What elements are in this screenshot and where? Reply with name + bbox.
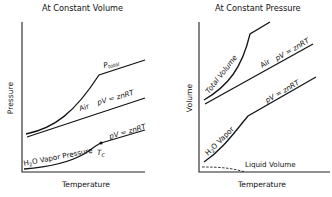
panel-constant-volume: At Constant Volume Pressure Temperature … [6, 3, 147, 189]
y-axis-label: Pressure [6, 81, 15, 114]
label-air-eq: pV = znRT [273, 36, 312, 63]
label-liquid-volume: Liquid Volume [245, 160, 296, 169]
figure: At Constant Volume Pressure Temperature … [0, 0, 332, 197]
label-h2o-vapor-pressure: H2O Vapor Pressure [23, 146, 94, 169]
panel-title: At Constant Volume [42, 3, 123, 13]
label-air: Air [78, 102, 90, 113]
label-vapor-eq: pV = znRT [263, 78, 302, 105]
label-air-eq: pV = znRT [95, 88, 135, 108]
panel-title: At Constant Pressure [215, 3, 301, 13]
curve-liquid-volume [202, 167, 245, 172]
curve-h2o-vapor [204, 77, 316, 162]
x-axis-label: Temperature [237, 180, 286, 189]
label-h2o-vapor: H2O Vapor [203, 125, 236, 158]
label-tc: TC [97, 148, 105, 158]
panel-constant-pressure: At Constant Pressure Volume Temperature … [185, 3, 330, 189]
label-vapor-eq: pV = znRT [107, 122, 147, 142]
x-axis-label: Temperature [61, 180, 110, 189]
y-axis-label: Volume [185, 84, 194, 113]
critical-point-marker [99, 141, 102, 144]
